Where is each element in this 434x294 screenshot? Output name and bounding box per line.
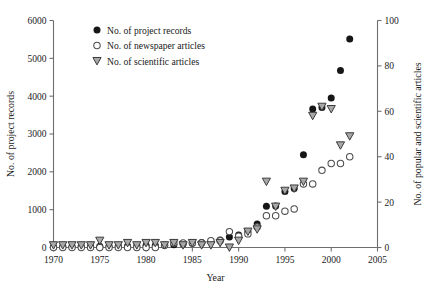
data-point (96, 237, 104, 244)
data-point (309, 112, 317, 119)
x-tick-label: 1990 (229, 255, 248, 265)
x-tick-label: 2000 (322, 255, 341, 265)
y2-tick-label: 80 (385, 61, 395, 71)
y-tick-label: 3000 (28, 129, 47, 139)
data-point (216, 239, 224, 246)
data-points (49, 36, 353, 252)
series-filled-circle (50, 36, 353, 251)
data-point (253, 226, 261, 233)
y2-tick-label: 60 (385, 107, 395, 117)
y2-axis-title: No. of popular and scientific articles (412, 62, 423, 205)
y2-tick-label: 20 (385, 198, 395, 208)
series-open-circle (50, 154, 353, 251)
legend-label: No. of project records (107, 25, 191, 36)
x-tick-label: 1995 (275, 255, 294, 265)
legend-label: No. of scientific articles (107, 56, 199, 67)
x-tick-label: 2005 (368, 255, 387, 265)
data-point (346, 133, 354, 140)
x-tick-label: 1980 (137, 255, 156, 265)
y2-tick-label: 40 (385, 152, 395, 162)
y-tick-label: 6000 (28, 16, 47, 26)
data-point (262, 178, 270, 185)
data-point (309, 106, 316, 113)
y-tick-label: 4000 (28, 92, 47, 102)
scatter-plot: 0100020003000400050006000020406080100197… (0, 0, 434, 294)
data-point (235, 237, 243, 244)
legend-marker (94, 42, 100, 48)
data-point (337, 67, 344, 74)
data-point (336, 142, 344, 149)
y2-tick-label: 100 (385, 16, 400, 26)
y-tick-label: 0 (42, 243, 47, 253)
y-tick-label: 2000 (28, 167, 47, 177)
chart-legend: No. of project recordsNo. of newspaper a… (93, 25, 205, 67)
x-tick-label: 1970 (44, 255, 63, 265)
data-point (310, 181, 316, 187)
data-point (346, 36, 353, 43)
data-point (319, 167, 325, 173)
y-tick-label: 5000 (28, 54, 47, 64)
data-point (263, 213, 269, 219)
data-point (327, 106, 335, 113)
legend-label: No. of newspaper articles (107, 40, 205, 51)
data-point (337, 160, 343, 166)
data-point (328, 160, 334, 166)
chart-figure: 0100020003000400050006000020406080100197… (0, 0, 434, 294)
data-point (300, 151, 307, 158)
series-open-triangle-down (49, 103, 353, 251)
legend-marker (94, 27, 101, 34)
data-point (291, 206, 297, 212)
x-axis-title: Year (206, 272, 225, 283)
x-tick-label: 1985 (183, 255, 202, 265)
axis-titles: YearNo. of project recordsNo. of popular… (5, 62, 423, 282)
data-point (328, 95, 335, 102)
y2-tick-label: 0 (385, 243, 390, 253)
data-point (226, 228, 232, 234)
data-point (282, 208, 288, 214)
x-tick-label: 1975 (90, 255, 109, 265)
data-point (263, 203, 270, 210)
y-axis-title: No. of project records (5, 91, 16, 177)
axes: 0100020003000400050006000020406080100197… (28, 16, 400, 265)
legend-marker (93, 57, 101, 64)
data-point (347, 154, 353, 160)
y-tick-label: 1000 (28, 205, 47, 215)
data-point (272, 213, 278, 219)
